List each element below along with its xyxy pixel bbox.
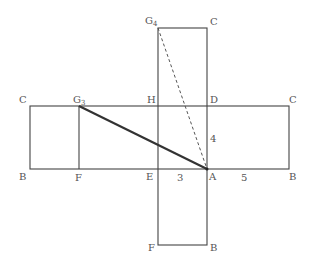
label-b-bottom: B	[210, 242, 217, 253]
vertical-strip	[158, 28, 207, 245]
label-h: H	[147, 94, 156, 105]
label-c-left: C	[19, 94, 27, 105]
label-dim-4: 4	[210, 133, 216, 144]
horizontal-strip	[30, 106, 289, 169]
label-e: E	[146, 171, 153, 182]
label-d: D	[210, 94, 218, 105]
label-c-top: C	[210, 16, 218, 27]
solid-path-g3-a	[79, 106, 207, 169]
label-dim-3: 3	[177, 172, 183, 183]
label-c-right: C	[289, 94, 297, 105]
label-dim-5: 5	[241, 172, 247, 183]
box-net-diagram: G4 C C G3 H D C B F E 3 A 5 B 4 F B	[0, 0, 316, 268]
label-f-bottom: F	[148, 242, 155, 253]
label-b-right: B	[289, 171, 296, 182]
label-a: A	[208, 171, 217, 182]
label-g4: G4	[145, 15, 158, 28]
label-f-left: F	[75, 172, 82, 183]
label-b-left: B	[19, 171, 26, 182]
label-g3: G3	[73, 94, 85, 107]
